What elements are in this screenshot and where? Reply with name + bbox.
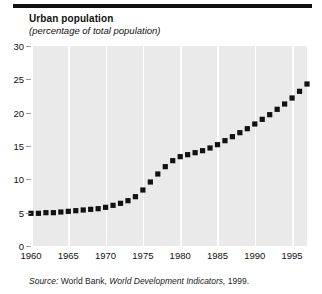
source-publisher: World Bank, bbox=[61, 276, 107, 286]
y-axis-tick-mark bbox=[26, 113, 31, 114]
data-point-marker bbox=[66, 209, 71, 214]
data-point-marker bbox=[148, 179, 153, 184]
plot-area bbox=[31, 46, 307, 246]
y-axis-tick-label: 10 bbox=[2, 174, 24, 185]
data-point-marker bbox=[178, 154, 183, 159]
data-point-marker bbox=[103, 205, 108, 210]
data-point-marker bbox=[185, 152, 190, 157]
data-point-marker bbox=[140, 187, 145, 192]
data-point-marker bbox=[245, 126, 250, 131]
y-axis-tick-mark bbox=[26, 179, 31, 180]
y-axis-tick-label: 30 bbox=[2, 41, 24, 52]
data-point-marker bbox=[110, 203, 115, 208]
y-axis-tick-label: 25 bbox=[2, 74, 24, 85]
data-point-marker bbox=[155, 171, 160, 176]
data-point-marker bbox=[200, 148, 205, 153]
data-point-marker bbox=[230, 134, 235, 139]
data-point-marker bbox=[275, 107, 280, 112]
data-point-marker bbox=[73, 208, 78, 213]
x-axis-tick-label: 1960 bbox=[20, 250, 41, 261]
source-note: Source: World Bank, World Development In… bbox=[29, 276, 249, 286]
x-axis-tick-label: 1995 bbox=[282, 250, 303, 261]
x-axis-tick-label: 1965 bbox=[58, 250, 79, 261]
data-point-marker bbox=[215, 142, 220, 147]
y-axis-tick-label: 15 bbox=[2, 141, 24, 152]
data-point-marker bbox=[297, 89, 302, 94]
data-point-marker bbox=[88, 207, 93, 212]
source-lead: Source: bbox=[29, 276, 58, 286]
data-point-marker bbox=[51, 210, 56, 215]
data-point-marker bbox=[170, 158, 175, 163]
chart-title: Urban population bbox=[29, 13, 113, 24]
data-point-marker bbox=[289, 95, 294, 100]
data-point-marker bbox=[81, 207, 86, 212]
data-point-marker bbox=[43, 210, 48, 215]
x-axis-tick-label: 1990 bbox=[244, 250, 265, 261]
data-point-marker bbox=[133, 194, 138, 199]
data-point-marker bbox=[125, 198, 130, 203]
data-point-marker bbox=[252, 121, 257, 126]
chart-subtitle: (percentage of total population) bbox=[29, 25, 161, 36]
x-axis-tick-label: 1980 bbox=[170, 250, 191, 261]
data-point-marker bbox=[118, 201, 123, 206]
data-point-marker bbox=[237, 130, 242, 135]
data-point-marker bbox=[222, 138, 227, 143]
data-point-marker bbox=[36, 211, 41, 216]
data-point-marker bbox=[267, 112, 272, 117]
urban-population-series bbox=[31, 46, 307, 246]
data-point-marker bbox=[163, 164, 168, 169]
data-point-marker bbox=[58, 209, 63, 214]
y-axis-tick-mark bbox=[26, 46, 31, 47]
data-point-marker bbox=[96, 206, 101, 211]
y-axis-tick-mark bbox=[26, 213, 31, 214]
data-point-marker bbox=[207, 145, 212, 150]
data-point-marker bbox=[193, 150, 198, 155]
data-point-marker bbox=[304, 81, 309, 86]
x-axis-tick-label: 1985 bbox=[207, 250, 228, 261]
data-point-marker bbox=[282, 101, 287, 106]
top-rule-divider bbox=[13, 4, 312, 8]
y-axis-tick-label: 20 bbox=[2, 107, 24, 118]
y-axis-tick-mark bbox=[26, 79, 31, 80]
y-axis-tick-label: 5 bbox=[2, 207, 24, 218]
y-axis-tick-mark bbox=[26, 146, 31, 147]
y-axis-tick-mark bbox=[26, 246, 31, 247]
source-year: 1999. bbox=[228, 276, 249, 286]
x-axis-tick-label: 1970 bbox=[95, 250, 116, 261]
x-axis-tick-label: 1975 bbox=[132, 250, 153, 261]
source-publication: World Development Indicators, bbox=[109, 276, 225, 286]
data-point-marker bbox=[260, 117, 265, 122]
